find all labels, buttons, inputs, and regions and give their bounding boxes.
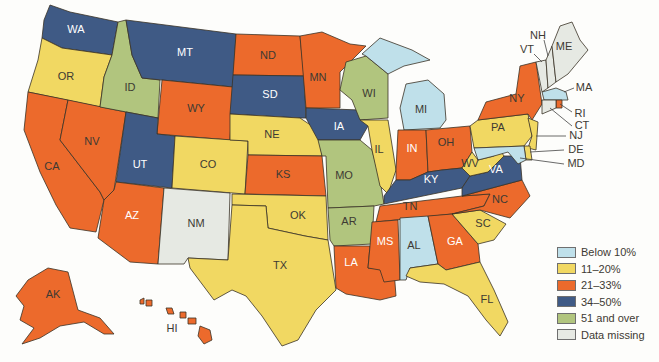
state-label-sd: SD [262,88,277,100]
legend-label: 21–33% [581,279,621,291]
state-label-ga: GA [447,235,464,247]
state-label-in: IN [407,142,418,154]
legend-item-51-and-over: 51 and over [557,310,659,326]
legend-swatch [557,329,576,340]
state-label-az: AZ [125,209,139,221]
state-label-wa: WA [67,23,85,35]
state-label-va: VA [489,163,504,175]
legend-item-21-33: 21–33% [557,277,659,293]
legend-item-34-50: 34–50% [557,294,659,310]
state-label-ak: AK [46,288,61,300]
state-AK [16,268,114,344]
map-legend: Below 10% 11–20% 21–33% 34–50% 51 and ov… [557,244,659,343]
state-label-hi: HI [167,322,178,334]
state-label-nc: NC [492,193,508,205]
state-label-tx: TX [273,259,288,271]
state-label-ma: MA [576,81,593,93]
state-label-sc: SC [475,217,490,229]
legend-label: 34–50% [581,296,621,308]
state-label-mt: MT [177,46,193,58]
state-label-nh: NH [530,29,546,41]
legend-swatch [557,296,576,307]
state-CT [542,100,556,114]
state-label-md: MD [567,157,584,169]
legend-label: 51 and over [581,312,639,324]
leader-vt [534,54,542,62]
state-label-ri: RI [575,107,586,119]
state-label-id: ID [125,81,136,93]
leader-ma [564,88,574,92]
state-label-wi: WI [362,87,375,99]
state-label-co: CO [200,158,217,170]
state-label-ms: MS [377,235,394,247]
state-label-ut: UT [133,158,148,170]
state-label-nj: NJ [569,129,582,141]
state-label-pa: PA [491,121,506,133]
state-label-mo: MO [335,169,353,181]
state-label-ne: NE [264,128,279,140]
state-label-al: AL [407,239,420,251]
legend-swatch [557,313,576,324]
state-label-mi: MI [415,103,427,115]
state-label-ky: KY [424,173,439,185]
legend-item-11-20: 11–20% [557,261,659,277]
state-label-de: DE [568,143,583,155]
state-label-me: ME [556,40,573,52]
state-label-nv: NV [84,135,100,147]
legend-swatch [557,263,576,274]
state-label-ok: OK [290,209,307,221]
state-label-la: LA [344,256,358,268]
leader-nh [544,40,548,56]
state-label-vt: VT [520,43,534,55]
state-label-ks: KS [276,168,291,180]
leader-md [520,158,564,164]
state-ME [552,22,588,82]
state-label-mn: MN [309,71,326,83]
leader-ct [550,108,572,126]
legend-swatch [557,280,576,291]
state-label-wv: WV [461,157,479,169]
state-label-nd: ND [260,49,276,61]
legend-item-below10: Below 10% [557,244,659,260]
state-label-wy: WY [187,102,205,114]
state-label-ia: IA [334,120,345,132]
state-label-tn: TN [403,200,418,212]
state-label-ar: AR [341,215,356,227]
state-label-ny: NY [509,92,525,104]
state-label-oh: OH [438,136,455,148]
state-label-or: OR [58,70,75,82]
state-label-fl: FL [481,293,494,305]
leader-de [530,150,564,152]
state-label-il: IL [374,143,383,155]
legend-label: 11–20% [581,263,621,275]
state-label-nm: NM [187,217,204,229]
legend-label: Data missing [581,329,645,341]
state-label-ca: CA [44,160,60,172]
state-RI [556,100,562,108]
legend-item-data-missing: Data missing [557,327,659,343]
legend-swatch [557,247,576,258]
legend-label: Below 10% [581,246,636,258]
